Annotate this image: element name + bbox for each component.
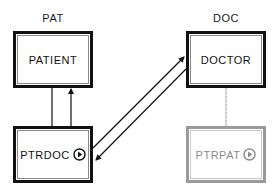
play-circle-icon[interactable] [243,148,256,161]
node-doctor-label: DOCTOR [201,54,251,66]
node-patient-label: PATIENT [29,54,77,66]
pointer-diagram: PAT DOC PATIENT DOCTOR PTRDOC PTRPAT [0,0,279,196]
edge-ptrdoc-doctor-arrow [93,57,184,148]
node-doctor[interactable]: DOCTOR [186,31,266,88]
node-ptrdoc[interactable]: PTRDOC [13,126,93,183]
group-label-pat: PAT [13,12,93,24]
group-label-doc: DOC [186,12,266,24]
node-ptrpat[interactable]: PTRPAT [186,126,266,183]
node-ptrdoc-label: PTRDOC [20,149,69,161]
node-ptrpat-label: PTRPAT [196,149,241,161]
edge-doctor-ptrdoc-arrow [96,69,186,160]
play-circle-icon[interactable] [73,148,86,161]
node-patient[interactable]: PATIENT [13,31,93,88]
